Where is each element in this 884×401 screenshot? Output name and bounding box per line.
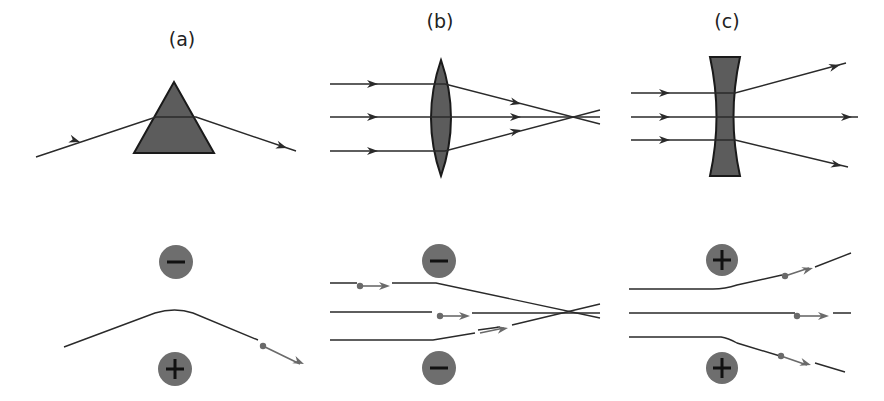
particle-trajectory <box>64 310 258 347</box>
particle-trajectory <box>330 312 600 313</box>
panel-label-a: (a) <box>169 28 195 50</box>
optics-analogy-diagram <box>0 0 884 401</box>
ray-arrow-icon <box>509 129 521 137</box>
diverging-light-ray <box>631 140 848 167</box>
panel-label-b: (b) <box>427 10 454 32</box>
velocity-arrow-icon <box>292 356 304 364</box>
panel-label-c: (c) <box>714 10 739 32</box>
diagram-canvas: (a) (b) (c) <box>0 0 884 401</box>
converging-lens-shape <box>431 60 451 176</box>
ray-arrow-icon <box>68 135 80 143</box>
velocity-arrow-icon <box>799 358 811 366</box>
particle-trajectory <box>629 253 851 289</box>
velocity-arrow-icon <box>801 267 813 275</box>
velocity-vector <box>263 346 300 364</box>
